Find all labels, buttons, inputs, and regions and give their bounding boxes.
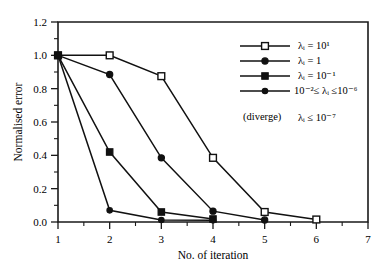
legend-label-lambda-10e1: λᵢ = 10¹ xyxy=(298,41,330,52)
y-tick-label: 0.6 xyxy=(33,116,47,128)
diverge-value: λᵢ ≤ 10⁻⁷ xyxy=(298,111,336,123)
legend-label-lambda-range: 10⁻²≤ λᵢ ≤10⁻⁶ xyxy=(294,86,357,97)
data-series xyxy=(55,53,215,223)
y-tick-label: 0.2 xyxy=(33,183,47,195)
chart-canvas: 0.0 0.2 0.4 0.6 0.8 1.0 1.2 1 2 3 4 5 6 … xyxy=(0,0,389,277)
data-point xyxy=(159,217,164,222)
y-tick-label: 0.4 xyxy=(33,149,47,161)
legend-sample-marker xyxy=(262,88,267,93)
y-tick-label: 0.0 xyxy=(33,216,47,228)
data-point xyxy=(262,217,268,223)
y-tick-label: 0.8 xyxy=(33,83,47,95)
data-point xyxy=(106,149,112,155)
data-point xyxy=(107,208,112,213)
x-axis-title: No. of iteration xyxy=(178,249,249,261)
data-point xyxy=(158,73,165,80)
y-tick-labels: 0.0 0.2 0.4 0.6 0.8 1.0 1.2 xyxy=(33,16,47,228)
data-point xyxy=(261,209,268,216)
x-tick-label: 3 xyxy=(159,233,165,245)
data-point xyxy=(210,218,215,223)
legend-sample-marker xyxy=(262,58,268,64)
diverge-note: (diverge) xyxy=(243,111,281,122)
series-line xyxy=(58,55,213,219)
data-series xyxy=(55,52,320,223)
legend-samples xyxy=(240,43,290,94)
data-point xyxy=(210,154,217,161)
x-tick-labels: 1 2 3 4 5 6 7 xyxy=(55,233,371,245)
data-point xyxy=(210,208,216,214)
y-tick-label: 1.2 xyxy=(33,16,47,28)
data-point xyxy=(158,155,164,161)
series-line xyxy=(58,55,316,219)
x-tick-label: 7 xyxy=(365,233,371,245)
x-tick-label: 6 xyxy=(314,233,320,245)
data-point xyxy=(107,71,113,77)
data-point xyxy=(55,53,60,58)
data-point xyxy=(158,209,164,215)
legend-sample-marker xyxy=(262,43,269,50)
legend-label-lambda-10e-1: λᵢ = 10⁻¹ xyxy=(298,71,336,82)
data-point xyxy=(106,52,113,59)
x-tick-label: 4 xyxy=(210,233,216,245)
legend-sample-marker xyxy=(262,73,268,79)
x-tick-label: 1 xyxy=(55,233,61,245)
data-point xyxy=(313,216,320,223)
x-tick-label: 2 xyxy=(107,233,113,245)
y-tick-label: 1.0 xyxy=(33,49,47,61)
data-series-layer xyxy=(55,52,320,223)
data-series xyxy=(55,52,216,222)
x-tick-label: 5 xyxy=(262,233,268,245)
y-axis-title: Normalised error xyxy=(12,82,24,161)
series-line xyxy=(58,55,213,220)
chart-figure: 0.0 0.2 0.4 0.6 0.8 1.0 1.2 1 2 3 4 5 6 … xyxy=(0,0,389,277)
legend-label-lambda-1: λᵢ = 1 xyxy=(298,56,321,67)
